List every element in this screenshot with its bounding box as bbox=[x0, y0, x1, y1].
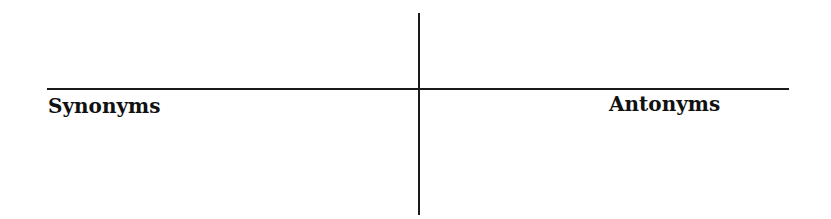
t-chart: Synonyms Antonyms bbox=[0, 0, 831, 219]
synonyms-heading: Synonyms bbox=[48, 96, 161, 116]
antonyms-heading: Antonyms bbox=[609, 94, 720, 114]
vertical-divider bbox=[418, 13, 420, 215]
